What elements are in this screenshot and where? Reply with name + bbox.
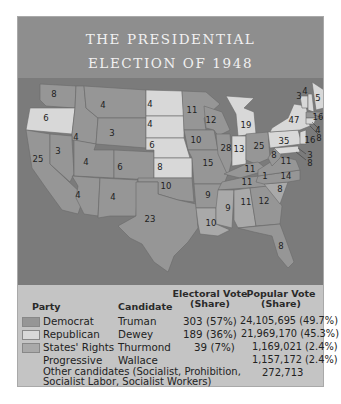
svg-text:47: 47 (289, 115, 300, 125)
svg-text:11: 11 (245, 164, 256, 174)
svg-text:25: 25 (33, 154, 44, 164)
svg-text:4: 4 (110, 192, 115, 202)
democrat-swatch (22, 317, 40, 327)
svg-text:4: 4 (100, 100, 105, 110)
svg-text:11: 11 (241, 197, 252, 207)
svg-text:15: 15 (203, 158, 214, 168)
svg-text:8: 8 (271, 150, 276, 160)
title-banner: THE PRESIDENTIAL ELECTION OF 1948 (18, 17, 323, 78)
header-party: Party (32, 302, 72, 312)
svg-text:25: 25 (254, 141, 265, 151)
svg-text:4: 4 (147, 119, 152, 129)
svg-text:10: 10 (161, 181, 172, 191)
svg-text:6: 6 (117, 162, 122, 172)
election-map-card: THE PRESIDENTIAL ELECTION OF 1948 (18, 17, 323, 386)
svg-text:11: 11 (281, 156, 292, 166)
svg-text:11: 11 (187, 105, 198, 115)
state-wy (96, 118, 146, 148)
title-line-2: ELECTION OF 1948 (18, 55, 323, 71)
svg-text:4: 4 (147, 99, 152, 109)
states-rights-swatch (22, 343, 40, 353)
svg-text:19: 19 (241, 120, 252, 130)
svg-text:23: 23 (145, 214, 156, 224)
map-svg: 8 6 25 4 3 4 3 4 6 4 4 4 4 6 8 10 23 11 … (18, 78, 323, 285)
svg-text:8: 8 (307, 158, 312, 168)
legend-table: Party Candidate Electoral Vote (Share) P… (18, 285, 323, 386)
svg-text:14: 14 (281, 171, 292, 181)
state-wa (40, 84, 76, 108)
svg-text:8: 8 (157, 162, 162, 172)
svg-text:13: 13 (234, 144, 245, 154)
svg-text:11: 11 (242, 177, 253, 187)
legend-row-states-rights: States' Rights Thurmond 39 (7%) 1,169,02… (18, 341, 323, 354)
state-mi (226, 96, 256, 136)
header-candidate: Candidate (118, 302, 178, 312)
republican-swatch (22, 330, 40, 340)
svg-text:8: 8 (316, 133, 321, 143)
svg-text:35: 35 (279, 136, 290, 146)
svg-text:5: 5 (315, 93, 320, 103)
svg-text:9: 9 (225, 203, 230, 213)
state-mt (84, 86, 146, 118)
svg-text:10: 10 (206, 218, 217, 228)
title-line-1: THE PRESIDENTIAL (18, 31, 323, 47)
header-electoral: Electoral Vote (Share) (170, 289, 250, 308)
legend-row-republican: Republican Dewey 189 (36%) 21,969,170 (4… (18, 328, 323, 341)
svg-text:4: 4 (83, 157, 88, 167)
svg-text:9: 9 (205, 190, 210, 200)
state-nm (98, 178, 138, 218)
state-or (26, 108, 75, 134)
other-candidates: Other candidates (Socialist, Prohibition… (43, 367, 241, 386)
other-candidates-popular: 272,713 (262, 367, 303, 378)
svg-text:16: 16 (313, 112, 323, 122)
svg-text:4: 4 (75, 190, 80, 200)
svg-text:3: 3 (109, 128, 114, 138)
svg-text:3: 3 (296, 91, 301, 101)
state-fl (238, 224, 294, 268)
svg-text:8: 8 (277, 184, 282, 194)
svg-text:12: 12 (206, 115, 217, 125)
svg-text:4: 4 (302, 86, 307, 96)
svg-text:4: 4 (73, 132, 78, 142)
legend-row-democrat: Democrat Truman 303 (57%) 24,105,695 (49… (18, 315, 323, 328)
svg-text:6: 6 (43, 113, 48, 123)
svg-text:10: 10 (191, 135, 202, 145)
svg-text:6: 6 (149, 140, 154, 150)
header-popular: Popular Vote (Share) (240, 289, 322, 308)
svg-text:12: 12 (259, 196, 270, 206)
state-ut (74, 140, 114, 178)
us-electoral-map: 8 6 25 4 3 4 3 4 6 4 4 4 4 6 8 10 23 11 … (18, 78, 323, 285)
svg-text:8: 8 (51, 89, 56, 99)
svg-text:1: 1 (262, 171, 267, 181)
state-nh (308, 94, 314, 112)
svg-text:28: 28 (221, 143, 232, 153)
svg-text:16: 16 (305, 135, 316, 145)
svg-text:8: 8 (278, 241, 283, 251)
svg-text:3: 3 (55, 146, 60, 156)
